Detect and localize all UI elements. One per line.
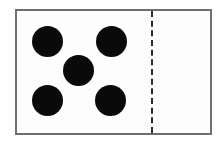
pip-left-center (63, 55, 94, 86)
pip-left-top-right (96, 26, 127, 57)
domino-half-left-count: 5 (17, 11, 18, 12)
domino-stage: 5 2 5-2 Domino tile showing five pips on… (0, 0, 223, 145)
domino-half-right: 2 (151, 11, 210, 133)
domino-alt-text: Domino tile showing five pips on the lef… (0, 0, 1, 1)
domino-notation: 5-2 (0, 0, 1, 1)
pip-left-bottom-left (32, 85, 63, 116)
domino-center-divider (151, 11, 153, 133)
domino-tile: 5 2 (15, 9, 212, 135)
pip-left-top-left (32, 26, 63, 57)
pip-left-bottom-right (95, 85, 126, 116)
domino-half-left: 5 (17, 11, 151, 133)
